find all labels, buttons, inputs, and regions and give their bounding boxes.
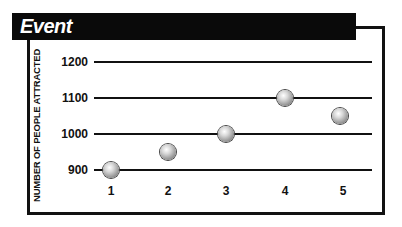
gridline-1200 (94, 61, 372, 63)
data-point-3 (218, 126, 234, 142)
data-point-5 (332, 108, 348, 124)
gridline-1100 (94, 97, 372, 99)
y-tick-1200: 1200 (48, 55, 88, 69)
chart-title: Event (20, 15, 72, 38)
x-tick-2: 2 (158, 184, 178, 198)
y-tick-1100: 1100 (48, 91, 88, 105)
x-tick-3: 3 (216, 184, 236, 198)
x-tick-5: 5 (333, 184, 353, 198)
gridline-900 (94, 169, 372, 171)
y-tick-900: 900 (48, 163, 88, 177)
x-tick-1: 1 (101, 184, 121, 198)
title-banner: Event (12, 13, 356, 40)
x-tick-4: 4 (275, 184, 295, 198)
data-point-2 (160, 144, 176, 160)
data-point-1 (103, 162, 119, 178)
y-tick-1000: 1000 (48, 127, 88, 141)
data-point-4 (277, 90, 293, 106)
y-axis-label: NUMBER OF PEOPLE ATTRACTED (31, 52, 42, 202)
